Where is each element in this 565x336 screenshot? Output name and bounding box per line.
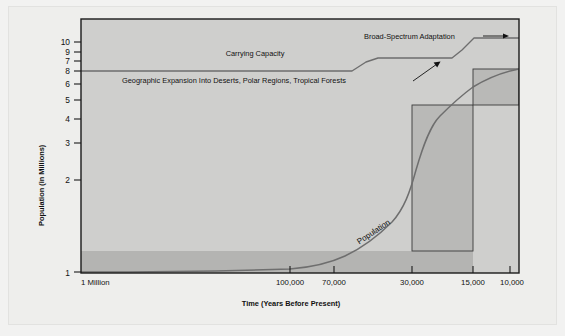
broad-spectrum-region <box>473 69 519 105</box>
x-axis-title: Time (Years Before Present) <box>242 299 341 308</box>
x-origin-label: 1 Million <box>81 278 110 287</box>
x-tick-10000: 10,000 <box>500 278 525 287</box>
y-axis-title: Population (in Millions) <box>37 144 46 226</box>
x-tick-30000: 30,000 <box>400 278 425 287</box>
y-tick-7: 7 <box>65 56 70 66</box>
y-tick-8: 8 <box>65 66 70 76</box>
y-axis-tick-labels: 10 9 8 7 6 5 4 3 2 1 <box>61 37 71 278</box>
x-tick-15000: 15,000 <box>461 278 486 287</box>
chart-figure: 10 9 8 7 6 5 4 3 2 1 Population (in Mill… <box>0 0 565 336</box>
y-axis-ticks <box>74 42 81 272</box>
x-tick-100000: 100,000 <box>276 278 305 287</box>
geographic-expansion-region <box>412 105 473 251</box>
carrying-capacity-label: Carrying Capacity <box>226 49 285 58</box>
y-tick-4: 4 <box>65 114 70 124</box>
y-tick-6: 6 <box>65 79 70 89</box>
x-tick-70000: 70,000 <box>322 278 347 287</box>
population-carrying-capacity-chart: 10 9 8 7 6 5 4 3 2 1 Population (in Mill… <box>0 0 565 336</box>
y-tick-3: 3 <box>65 138 70 148</box>
y-tick-5: 5 <box>65 95 70 105</box>
geographic-expansion-label: Geographic Expansion Into Deserts, Polar… <box>122 76 346 85</box>
y-tick-10: 10 <box>61 37 71 47</box>
x-axis-tick-labels: 100,000 70,000 30,000 15,000 10,000 1 Mi… <box>81 278 525 287</box>
broad-spectrum-label: Broad-Spectrum Adaptation <box>364 32 455 41</box>
y-tick-1: 1 <box>65 268 70 278</box>
y-tick-2: 2 <box>65 175 70 185</box>
